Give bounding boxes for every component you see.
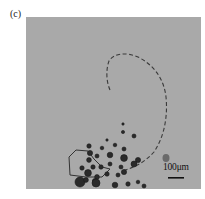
highlight-particle xyxy=(163,154,170,162)
panel-label: (c) xyxy=(10,8,21,19)
scale-bar-label: 100μm xyxy=(163,162,189,172)
particle-cluster xyxy=(75,123,146,188)
scale-bar xyxy=(168,177,184,179)
trajectory-dashed-curve xyxy=(107,54,167,171)
